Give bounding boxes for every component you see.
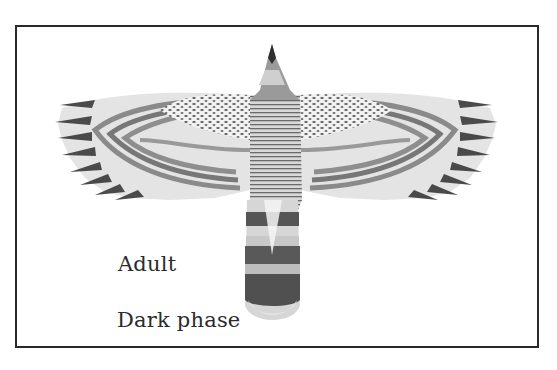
morph-label: Dark phase bbox=[117, 308, 241, 332]
hawk-illustration bbox=[0, 0, 557, 370]
age-label: Adult bbox=[118, 252, 176, 276]
left-wing bbox=[55, 93, 250, 200]
tail bbox=[245, 200, 300, 320]
right-wing bbox=[300, 93, 498, 200]
